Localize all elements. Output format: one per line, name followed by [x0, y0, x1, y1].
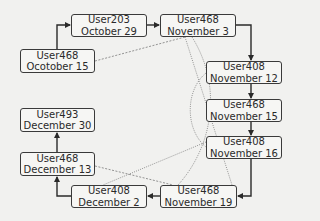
node-user: User408 — [223, 61, 265, 73]
node-user: User468 — [37, 50, 79, 62]
node-date: December 13 — [24, 164, 92, 176]
node-date: November 15 — [210, 111, 278, 123]
node-user: User468 — [37, 153, 79, 165]
node-date: November 16 — [210, 148, 278, 160]
node-user468-nov3: User468 November 3 — [160, 14, 236, 37]
node-user203-oct29: User203 October 29 — [71, 14, 147, 37]
node-date: November 3 — [167, 26, 229, 38]
node-user468-oct15: User468 Ocotober 15 — [20, 49, 95, 73]
node-user408-nov16: User408 November 16 — [206, 136, 282, 159]
node-user: User203 — [88, 14, 130, 26]
node-user: User408 — [223, 136, 265, 148]
link-n1-n3 — [95, 37, 185, 61]
node-user468-dec13: User468 December 13 — [20, 152, 95, 176]
node-date: November 19 — [165, 197, 233, 209]
node-user408-nov12: User408 November 12 — [206, 61, 282, 84]
node-user: User468 — [178, 185, 220, 197]
arrow-n6-n7 — [238, 159, 251, 196]
node-user: User468 — [177, 14, 219, 26]
node-user468-nov19: User468 November 19 — [160, 185, 237, 208]
arrow-n3-n4 — [236, 25, 251, 60]
node-date: October 29 — [81, 26, 137, 38]
arrow-n1-n2 — [57, 25, 70, 49]
node-user408-dec2: User408 December 2 — [71, 185, 147, 208]
node-user468-nov15: User468 November 15 — [206, 99, 282, 122]
node-date: December 30 — [24, 120, 92, 132]
link-n9-n7 — [95, 166, 173, 185]
arrow-n8-n9 — [57, 177, 71, 196]
node-user493-dec30: User493 December 30 — [20, 108, 95, 132]
node-date: December 2 — [78, 197, 139, 209]
link-n4-n6-curve — [190, 73, 206, 147]
node-date: Ocotober 15 — [26, 61, 88, 73]
node-user: User493 — [37, 109, 79, 121]
node-date: November 12 — [210, 73, 278, 85]
link-n6-n8 — [103, 142, 206, 185]
node-user: User408 — [88, 185, 130, 197]
node-user: User468 — [223, 99, 265, 111]
